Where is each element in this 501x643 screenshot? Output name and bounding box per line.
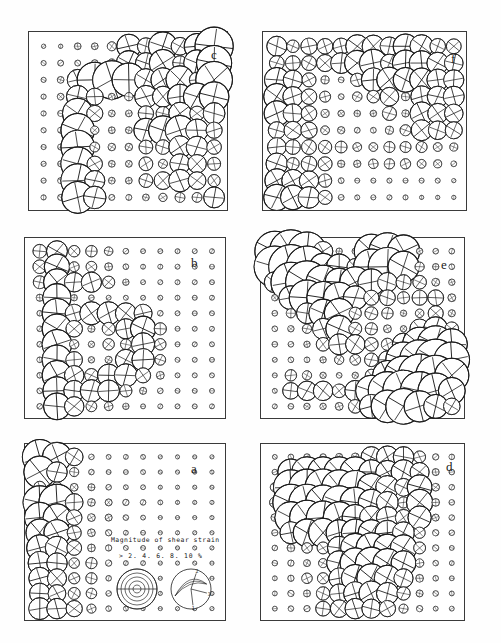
svg-text:2: 2 [195,568,198,574]
legend: Magnitude of shear strain> 2. 4. 6. 8. 1… [111,536,223,612]
panel-c: c [28,31,228,211]
legend-scale: > 2. 4. 6. 8. 10 % [119,552,223,560]
panel-label-f: f [451,52,455,65]
legend-symbols: 231 [111,566,221,612]
legend-title: Magnitude of shear strain [111,536,223,544]
panel-a: aMagnitude of shear strain> 2. 4. 6. 8. … [24,443,226,621]
svg-text:1: 1 [192,605,195,611]
panel-label-c: c [211,48,217,61]
panel-label-d: d [446,460,453,473]
panel-b: b [24,237,226,419]
panel-label-a: a [191,462,197,475]
panel-label-b: b [191,256,198,269]
panel-d: d [260,443,465,621]
figure-root: cfbeaMagnitude of shear strain> 2. 4. 6.… [0,0,501,643]
svg-text:3: 3 [208,591,211,597]
panel-label-e: e [441,258,447,271]
panel-e: e [260,237,465,419]
panel-f: f [262,31,467,211]
